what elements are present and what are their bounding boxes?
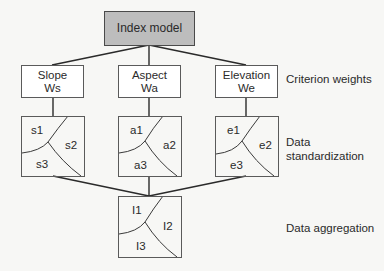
edge-root-slope xyxy=(52,45,149,65)
data-standardization-label-line1: Data xyxy=(286,136,310,149)
slope-label: Slope xyxy=(38,69,67,82)
region-e3: e3 xyxy=(230,159,243,171)
index-model-box: Index model xyxy=(104,11,195,46)
region-i1: I1 xyxy=(132,204,142,216)
elevation-weight: We xyxy=(238,82,255,95)
aspect-weight: Wa xyxy=(141,82,158,95)
edge-root-elevation xyxy=(149,45,246,65)
region-e1: e1 xyxy=(227,124,240,136)
region-s3: s3 xyxy=(36,158,48,170)
region-i3: I3 xyxy=(136,240,146,252)
region-a2: a2 xyxy=(163,139,176,151)
data-aggregation-label: Data aggregation xyxy=(286,222,374,235)
region-a1: a1 xyxy=(130,124,143,136)
region-s1: s1 xyxy=(31,124,43,136)
data-standardization-label-line2: standardization xyxy=(286,150,364,163)
region-e2: e2 xyxy=(259,139,272,151)
elevation-label: Elevation xyxy=(223,69,270,82)
criterion-weights-label: Criterion weights xyxy=(286,73,372,86)
region-s2: s2 xyxy=(65,139,77,151)
edge-e-aggregation xyxy=(149,176,246,196)
index-model-label: Index model xyxy=(117,22,182,35)
slope-weight: Ws xyxy=(44,82,61,95)
edge-s-aggregation xyxy=(53,176,149,196)
aspect-weight-box: Aspect Wa xyxy=(118,65,181,98)
slope-weight-box: Slope Ws xyxy=(21,65,84,98)
elevation-weight-box: Elevation We xyxy=(215,65,278,98)
aspect-label: Aspect xyxy=(132,69,167,82)
index-model-diagram: Index model Slope Ws Aspect Wa Elevation… xyxy=(0,0,384,271)
region-a3: a3 xyxy=(134,159,147,171)
region-i2: I2 xyxy=(163,220,173,232)
